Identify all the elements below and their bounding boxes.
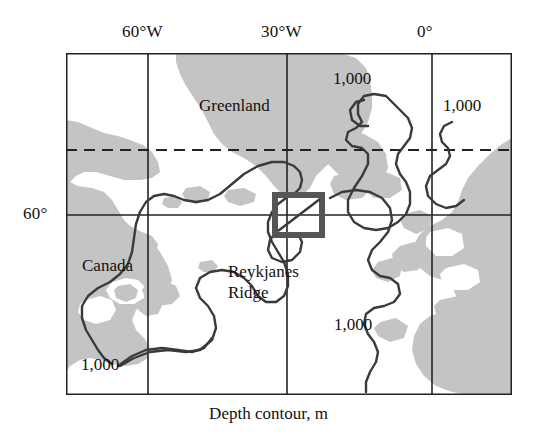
region-label-ridge: Ridge [228, 283, 269, 303]
figure-caption: Depth contour, m [0, 404, 537, 424]
contour-label-north: 1,000 [333, 69, 371, 89]
axis-label-60N: 60° [23, 204, 47, 224]
depth-contour-map-figure: 60°W 30°W 0° 60° Greenland Canada Reykja… [0, 0, 537, 443]
region-label-greenland: Greenland [199, 96, 270, 116]
axis-label-60W: 60°W [122, 22, 163, 42]
region-label-canada: Canada [82, 256, 133, 276]
contour-label-northeast: 1,000 [443, 96, 481, 116]
contour-label-southwest: 1,000 [81, 355, 119, 375]
map-canvas [0, 0, 537, 443]
axis-label-30W: 30°W [261, 22, 302, 42]
contour-label-southeast: 1,000 [334, 315, 372, 335]
region-label-reykjanes: Reykjanes [228, 262, 299, 282]
axis-label-0: 0° [417, 22, 433, 42]
